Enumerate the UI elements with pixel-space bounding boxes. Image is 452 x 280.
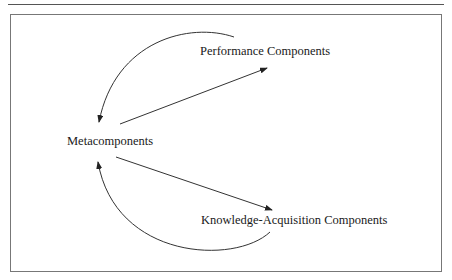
node-knowledge-acquisition-components: Knowledge-Acquisition Components: [201, 213, 387, 227]
arrow-meta-to-performance: [120, 68, 267, 124]
node-metacomponents: Metacomponents: [67, 134, 153, 148]
arrow-knowledge-to-meta: [98, 162, 270, 250]
node-performance-components: Performance Components: [200, 44, 330, 58]
arrow-meta-to-knowledge: [116, 157, 272, 210]
